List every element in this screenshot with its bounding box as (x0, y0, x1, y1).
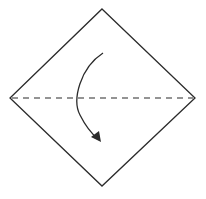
origami-diagram (0, 0, 206, 199)
